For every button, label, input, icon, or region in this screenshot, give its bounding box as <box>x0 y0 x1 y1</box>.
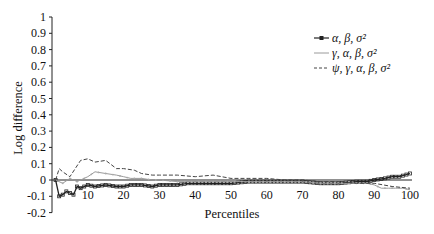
y-tick-label: 0.8 <box>31 43 46 57</box>
dot-marker-icon <box>205 181 207 183</box>
dot-marker-icon <box>377 186 379 188</box>
y-axis-title: Log difference <box>11 81 25 155</box>
dot-marker-icon <box>148 179 150 181</box>
x-tick-label: 30 <box>153 188 165 202</box>
dot-marker-icon <box>62 182 64 184</box>
dot-marker-icon <box>298 181 300 183</box>
dot-marker-icon <box>248 181 250 183</box>
dot-marker-icon <box>391 187 393 189</box>
y-tick-label: 0.9 <box>31 26 46 40</box>
dot-marker-icon <box>212 181 214 183</box>
dot-marker-icon <box>191 181 193 183</box>
x-tick-label: 60 <box>261 188 273 202</box>
line-chart: 10.90.80.70.60.50.40.30.20.10-0.1-0.2 10… <box>0 0 434 234</box>
y-tick-label: 0 <box>40 173 46 187</box>
y-tick-label: 0.3 <box>31 124 46 138</box>
y-tick-label: 0.7 <box>31 59 46 73</box>
x-tick-label: 90 <box>368 188 380 202</box>
dot-marker-icon <box>176 181 178 183</box>
dot-marker-icon <box>320 182 322 184</box>
dot-marker-icon <box>119 175 121 177</box>
legend-item-2: γ, α, β, σ² <box>314 46 377 60</box>
dot-marker-icon <box>269 181 271 183</box>
dot-marker-icon <box>184 181 186 183</box>
legend-label: α, β, σ² <box>332 31 366 45</box>
dot-marker-icon <box>227 181 229 183</box>
dot-marker-icon <box>90 173 92 175</box>
x-tick-label: 40 <box>189 188 201 202</box>
y-tick-label: 0.2 <box>31 140 46 154</box>
x-axis-title: Percentiles <box>205 207 260 221</box>
dot-marker-icon <box>76 181 78 183</box>
legend: α, β, σ² γ, α, β, σ² ψ, γ, α, β, σ² <box>314 31 390 75</box>
y-tick-label: 0.4 <box>31 108 46 122</box>
y-tick-label: 0.6 <box>31 75 46 89</box>
y-axis: 10.90.80.70.60.50.40.30.20.10-0.1-0.2 <box>27 10 52 220</box>
y-tick-label: -0.2 <box>27 206 46 220</box>
y-tick-label: 1 <box>40 10 46 24</box>
legend-label: ψ, γ, α, β, σ² <box>332 61 390 75</box>
dot-marker-icon <box>126 177 128 179</box>
dot-marker-icon <box>69 177 71 179</box>
dot-marker-icon <box>169 180 171 182</box>
dot-marker-icon <box>105 173 107 175</box>
x-tick-label: 50 <box>225 188 237 202</box>
legend-item-1: α, β, σ² <box>314 31 366 45</box>
dot-marker-icon <box>141 177 143 179</box>
dot-marker-icon <box>98 171 100 173</box>
dot-marker-icon <box>155 179 157 181</box>
dot-marker-icon <box>291 181 293 183</box>
square-marker-icon <box>320 36 324 40</box>
x-tick-label: 80 <box>332 188 344 202</box>
dot-marker-icon <box>112 174 114 176</box>
y-tick-label: 0.1 <box>31 157 46 171</box>
dot-marker-icon <box>83 177 85 179</box>
x-axis: 102030405060708090100 <box>82 188 419 202</box>
dot-marker-icon <box>284 181 286 183</box>
legend-label: γ, α, β, σ² <box>332 46 377 60</box>
dot-marker-icon <box>241 181 243 183</box>
dot-marker-icon <box>305 181 307 183</box>
dot-marker-icon <box>384 187 386 189</box>
dot-marker-icon <box>334 182 336 184</box>
dot-marker-icon <box>312 182 314 184</box>
y-tick-label: -0.1 <box>27 189 46 203</box>
dot-marker-icon <box>277 181 279 183</box>
dot-marker-icon <box>234 181 236 183</box>
dot-marker-icon <box>219 181 221 183</box>
x-tick-label: 100 <box>401 188 419 202</box>
dot-marker-icon <box>133 177 135 179</box>
legend-item-3: ψ, γ, α, β, σ² <box>314 61 390 75</box>
y-tick-label: 0.5 <box>31 92 46 106</box>
dot-marker-icon <box>262 181 264 183</box>
x-tick-label: 10 <box>82 188 94 202</box>
dot-marker-icon <box>341 182 343 184</box>
dot-marker-icon <box>198 181 200 183</box>
x-tick-label: 70 <box>297 188 309 202</box>
x-tick-label: 20 <box>118 188 130 202</box>
dot-marker-icon <box>162 179 164 181</box>
dot-marker-icon <box>327 182 329 184</box>
dot-marker-icon <box>406 188 408 190</box>
dot-marker-icon <box>255 181 257 183</box>
